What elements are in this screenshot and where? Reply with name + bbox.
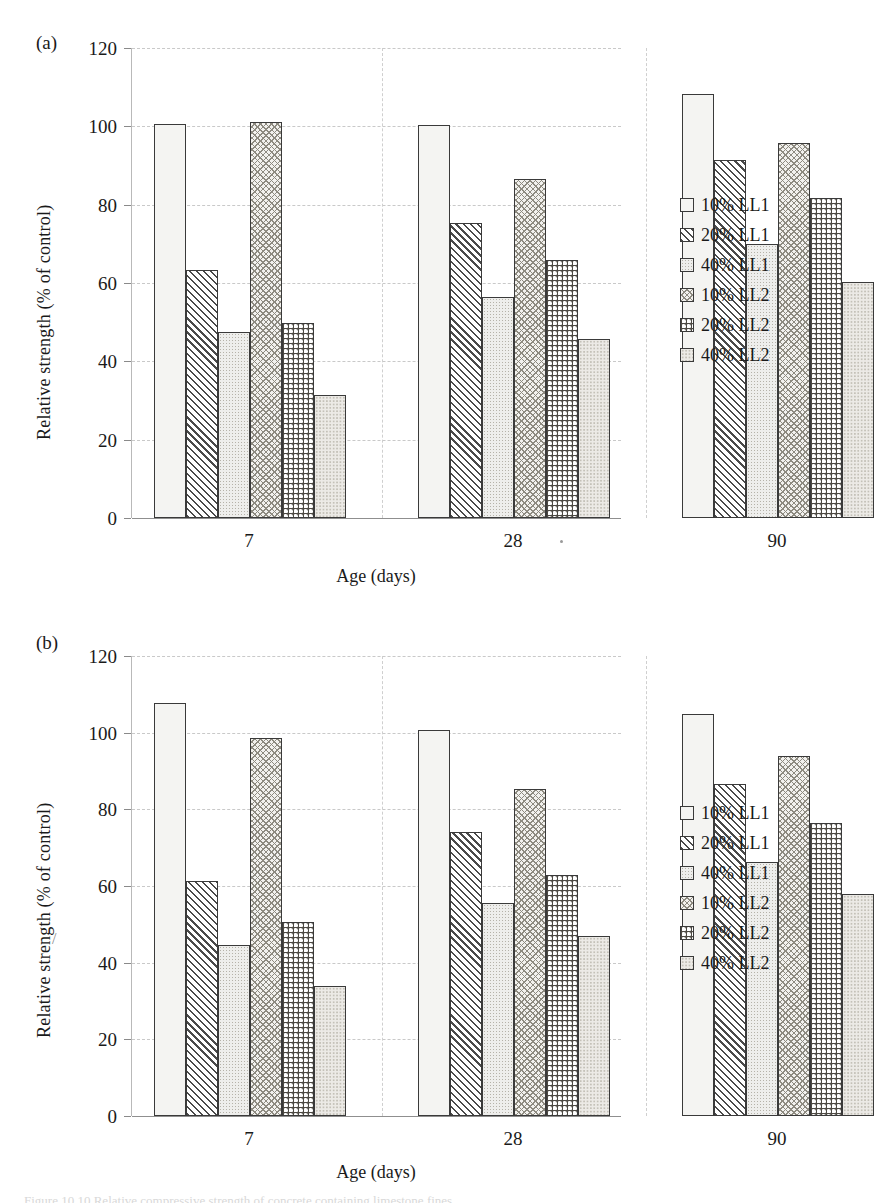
- plot-frame: [131, 656, 621, 1116]
- bar-20ll1-7: [186, 881, 218, 1116]
- y-tick-label: 80: [71, 800, 117, 819]
- legend-item-10ll2[interactable]: 10% LL2: [680, 280, 769, 310]
- bar-10ll2-90: [778, 756, 810, 1116]
- legend-item-label: 10% LL2: [701, 893, 769, 914]
- x-tick-label: 90: [681, 530, 873, 552]
- x-tick-label: 90: [681, 1128, 873, 1150]
- legend-swatch-icon: [680, 228, 694, 242]
- bar-group-7: [154, 656, 346, 1116]
- y-tick-mark: [124, 656, 131, 657]
- x-axis-label: Age (days): [131, 1162, 621, 1183]
- x-tick-label: 7: [153, 1128, 345, 1150]
- x-tick-label: 28: [417, 530, 609, 552]
- legend-item-40ll2[interactable]: 40% LL2: [680, 340, 769, 370]
- bar-group-7: [154, 48, 346, 518]
- bar-10ll1-28: [418, 730, 450, 1116]
- bar-20ll2-28: [546, 260, 578, 519]
- bar-20ll1-28: [450, 223, 482, 518]
- y-tick-label: 60: [71, 877, 117, 896]
- bar-40ll2-90: [842, 894, 874, 1116]
- legend-a: 10% LL120% LL140% LL110% LL220% LL240% L…: [680, 190, 769, 370]
- bar-20ll2-28: [546, 875, 578, 1117]
- y-tick-mark: [124, 963, 131, 964]
- legend-item-10ll2[interactable]: 10% LL2: [680, 888, 769, 918]
- legend-item-label: 40% LL2: [701, 345, 769, 366]
- legend-swatch-icon: [680, 956, 694, 970]
- y-tick-label: 100: [71, 117, 117, 136]
- y-tick-label: 20: [71, 430, 117, 449]
- legend-item-10ll1[interactable]: 10% LL1: [680, 190, 769, 220]
- legend-item-label: 20% LL1: [701, 833, 769, 854]
- bar-20ll2-7: [282, 922, 314, 1116]
- legend-item-label: 40% LL1: [701, 255, 769, 276]
- y-tick-label: 80: [71, 195, 117, 214]
- legend-item-label: 40% LL2: [701, 953, 769, 974]
- chart-panel-a: (a) Relative strength (% of control) 020…: [0, 0, 814, 600]
- bar-20ll1-7: [186, 270, 218, 518]
- legend-item-20ll2[interactable]: 20% LL2: [680, 310, 769, 340]
- y-tick-mark: [124, 886, 131, 887]
- bar-40ll2-90: [842, 282, 874, 518]
- x-axis-baseline: [132, 518, 621, 519]
- bar-group-28: [418, 48, 610, 518]
- bar-10ll1-7: [154, 124, 186, 518]
- bar-40ll1-28: [482, 903, 514, 1116]
- legend-swatch-icon: [680, 896, 694, 910]
- y-tick-mark: [124, 283, 131, 284]
- bar-40ll1-7: [218, 945, 250, 1116]
- bar-40ll2-7: [314, 395, 346, 518]
- y-tick-label: 100: [71, 723, 117, 742]
- x-axis-label: Age (days): [131, 566, 621, 587]
- y-tick-mark: [124, 361, 131, 362]
- legend-item-label: 10% LL1: [701, 195, 769, 216]
- figure-caption: Figure 10.10 Relative compressive streng…: [24, 1193, 794, 1203]
- legend-item-label: 20% LL2: [701, 923, 769, 944]
- group-separator: [646, 656, 647, 1116]
- group-separator: [646, 48, 647, 518]
- bar-40ll2-28: [578, 936, 610, 1116]
- bar-10ll1-7: [154, 703, 186, 1116]
- stray-dot: [560, 540, 563, 543]
- bar-20ll2-90: [810, 198, 842, 518]
- legend-swatch-icon: [680, 258, 694, 272]
- y-tick-mark: [124, 205, 131, 206]
- plot-frame: [131, 48, 621, 518]
- legend-swatch-icon: [680, 348, 694, 362]
- bar-40ll1-7: [218, 332, 250, 518]
- y-tick-label: 120: [71, 39, 117, 58]
- bar-20ll1-28: [450, 832, 482, 1116]
- y-tick-label: 20: [71, 1030, 117, 1049]
- y-tick-mark: [124, 1116, 131, 1117]
- legend-item-10ll1[interactable]: 10% LL1: [680, 798, 769, 828]
- legend-item-20ll2[interactable]: 20% LL2: [680, 918, 769, 948]
- legend-item-20ll1[interactable]: 20% LL1: [680, 220, 769, 250]
- y-tick-label: 40: [71, 352, 117, 371]
- legend-b: 10% LL120% LL140% LL110% LL220% LL240% L…: [680, 798, 769, 978]
- y-tick-label: 0: [71, 1107, 117, 1126]
- legend-swatch-icon: [680, 198, 694, 212]
- bar-40ll1-28: [482, 297, 514, 518]
- y-tick-label: 40: [71, 953, 117, 972]
- bar-20ll2-7: [282, 323, 314, 518]
- bar-10ll1-28: [418, 125, 450, 518]
- bar-10ll2-90: [778, 143, 810, 518]
- legend-item-label: 20% LL1: [701, 225, 769, 246]
- legend-item-40ll1[interactable]: 40% LL1: [680, 250, 769, 280]
- y-tick-mark: [124, 809, 131, 810]
- y-tick-mark: [124, 126, 131, 127]
- legend-item-40ll1[interactable]: 40% LL1: [680, 858, 769, 888]
- bar-10ll2-28: [514, 789, 546, 1116]
- y-tick-label: 0: [71, 509, 117, 528]
- y-tick-mark: [124, 733, 131, 734]
- y-tick-label: 120: [71, 647, 117, 666]
- group-separator: [382, 656, 383, 1116]
- legend-item-40ll2[interactable]: 40% LL2: [680, 948, 769, 978]
- y-tick-mark: [124, 518, 131, 519]
- legend-swatch-icon: [680, 866, 694, 880]
- legend-item-20ll1[interactable]: 20% LL1: [680, 828, 769, 858]
- chart-panel-b: (b) Relative strength (% of control) / 0…: [0, 600, 814, 1180]
- bar-40ll2-7: [314, 986, 346, 1116]
- bar-10ll2-7: [250, 122, 282, 518]
- y-tick-mark: [124, 1039, 131, 1040]
- x-tick-label: 7: [153, 530, 345, 552]
